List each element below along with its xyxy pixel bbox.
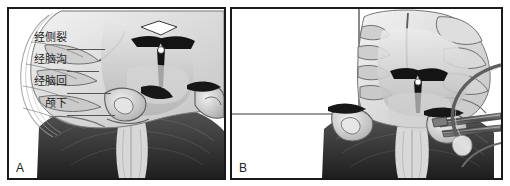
panel-b-main-artwork — [322, 10, 501, 178]
leader-line-subtemporal — [67, 115, 115, 116]
annotation-label-column: 经侧裂 经脑沟 经脑回 颅下 — [11, 27, 69, 115]
panel-b: B — [230, 7, 503, 180]
leader-line-trans-sulcal — [67, 71, 99, 72]
panel-letter-a: A — [16, 161, 25, 175]
figure-container: 经侧裂 经脑沟 经脑回 颅下 A — [0, 0, 510, 186]
leader-line-trans-gyral — [67, 93, 111, 94]
panel-b-inset-artwork — [232, 9, 359, 114]
annotation-label-trans-sulcal: 经脑沟 — [11, 49, 69, 71]
annotation-label-trans-sylvian: 经侧裂 — [11, 27, 69, 49]
panel-b-artwork — [232, 9, 501, 178]
leader-line-trans-sylvian — [67, 49, 105, 50]
annotation-label-subtemporal: 颅下 — [11, 93, 69, 115]
panel-letter-b: B — [239, 161, 248, 175]
annotation-label-trans-gyral: 经脑回 — [11, 71, 69, 93]
panel-a: 经侧裂 经脑沟 经脑回 颅下 A — [7, 7, 226, 180]
